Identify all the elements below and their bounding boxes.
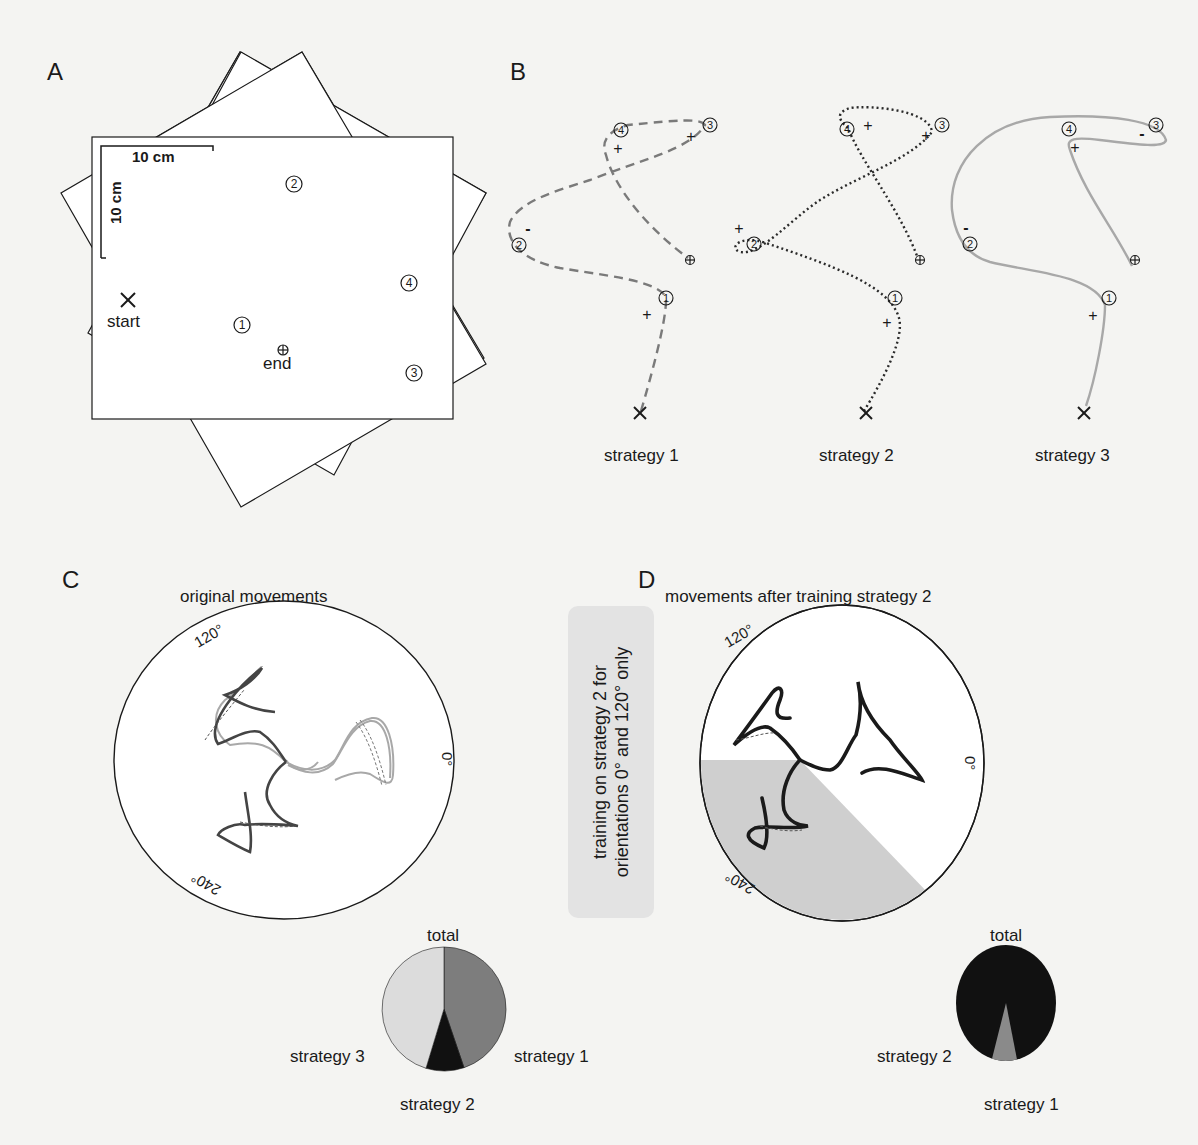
s1-minus-2: - bbox=[525, 220, 530, 237]
s2-plus-3: + bbox=[921, 127, 930, 144]
svg-text:3: 3 bbox=[939, 119, 945, 131]
svg-text:4: 4 bbox=[1066, 123, 1072, 135]
strategy-3-label: strategy 3 bbox=[1035, 446, 1110, 465]
s3-minus-3: - bbox=[1139, 125, 1144, 142]
s1-start-icon bbox=[634, 407, 646, 419]
s3-start-icon bbox=[1078, 407, 1090, 419]
s2-plus-4: + bbox=[863, 117, 872, 134]
s1-plus-4: + bbox=[613, 140, 622, 157]
svg-text:2: 2 bbox=[967, 238, 973, 250]
target-1-label: 1 bbox=[239, 318, 246, 332]
s1-plus-3: + bbox=[686, 128, 695, 145]
panel-a-frames bbox=[61, 52, 486, 507]
training-note-line-2: orientations 0° and 120° only bbox=[611, 647, 633, 878]
s2-start-icon bbox=[860, 407, 872, 419]
strategy-1-path bbox=[509, 120, 705, 411]
strategy-2-label: strategy 2 bbox=[819, 446, 894, 465]
strategy-2-path bbox=[735, 107, 932, 411]
pie-c bbox=[382, 947, 506, 1071]
svg-text:1: 1 bbox=[892, 292, 898, 304]
pie-c-title: total bbox=[427, 926, 459, 945]
strategy-1-label: strategy 1 bbox=[604, 446, 679, 465]
pie-d-label-strategy-1: strategy 1 bbox=[984, 1095, 1059, 1114]
panel-c-polar-plot bbox=[114, 601, 454, 919]
training-note: training on strategy 2 for orientations … bbox=[589, 647, 633, 878]
svg-text:3: 3 bbox=[707, 119, 713, 131]
end-label: end bbox=[263, 354, 291, 373]
s2-plus-1: + bbox=[882, 314, 891, 331]
d-angle-0: 0° bbox=[962, 756, 979, 770]
svg-text:1: 1 bbox=[663, 292, 669, 304]
pie-c-label-strategy-2: strategy 2 bbox=[400, 1095, 475, 1114]
svg-text:2: 2 bbox=[516, 239, 522, 251]
pie-c-label-strategy-3: strategy 3 bbox=[290, 1047, 365, 1066]
s3-plus-4: + bbox=[1070, 139, 1079, 156]
pie-d bbox=[956, 945, 1056, 1061]
svg-text:3: 3 bbox=[1153, 119, 1159, 131]
svg-text:1: 1 bbox=[1106, 292, 1112, 304]
strategy-1-diagram: 1234 + - + + bbox=[509, 118, 717, 419]
svg-text:4: 4 bbox=[844, 123, 850, 135]
pie-d-title: total bbox=[990, 926, 1022, 945]
svg-text:2: 2 bbox=[751, 238, 757, 250]
s3-plus-1: + bbox=[1088, 307, 1097, 324]
c-angle-0: 0° bbox=[439, 752, 456, 766]
target-2-label: 2 bbox=[291, 177, 298, 191]
panel-d-polar-plot bbox=[680, 605, 984, 940]
pie-c-label-strategy-1: strategy 1 bbox=[514, 1047, 589, 1066]
s3-minus-2: - bbox=[963, 219, 968, 236]
training-note-line-1: training on strategy 2 for bbox=[589, 647, 611, 878]
svg-text:4: 4 bbox=[618, 124, 624, 136]
strategy-3-path bbox=[952, 116, 1166, 406]
s2-plus-2: + bbox=[734, 220, 743, 237]
pie-d-label-strategy-2: strategy 2 bbox=[877, 1047, 952, 1066]
s1-plus-1: + bbox=[642, 306, 651, 323]
start-label: start bbox=[107, 312, 140, 331]
figure-canvas: 10 cm 10 cm start 1 2 3 4 end 1234 + - bbox=[0, 0, 1198, 1145]
scale-y-label: 10 cm bbox=[107, 181, 124, 224]
target-4-label: 4 bbox=[406, 276, 413, 290]
strategy-2-diagram: 1234 + + + + bbox=[734, 107, 949, 419]
scale-x-label: 10 cm bbox=[132, 148, 175, 165]
workspace-rect bbox=[92, 137, 453, 419]
strategy-3-diagram: 1234 + - - + bbox=[952, 116, 1166, 419]
panel-d-title: movements after training strategy 2 bbox=[665, 587, 931, 606]
target-3-label: 3 bbox=[411, 366, 418, 380]
